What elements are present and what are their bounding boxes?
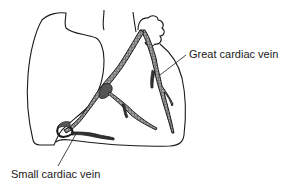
pulmonary-line	[133, 12, 136, 32]
small-vein-leader	[58, 134, 76, 166]
coronary-sinus-fill	[58, 121, 70, 128]
left-ventricle-outline	[56, 44, 185, 146]
aorta-line	[103, 10, 104, 30]
heart-illustration	[0, 0, 286, 188]
small-cardiac-vein	[72, 132, 114, 140]
great-vein-side-branch	[151, 70, 155, 88]
great-cardiac-vein	[140, 30, 174, 133]
heart-diagram: Great cardiac vein Small cardiac vein	[0, 0, 286, 188]
great-cardiac-vein-label: Great cardiac vein	[189, 48, 278, 60]
posterior-branch	[108, 92, 157, 130]
small-cardiac-vein-label: Small cardiac vein	[11, 168, 100, 180]
